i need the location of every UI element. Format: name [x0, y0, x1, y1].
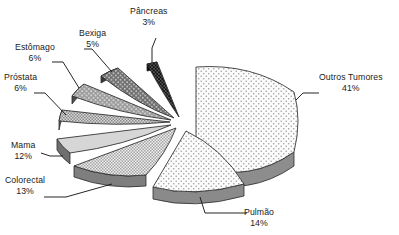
pie-chart-canvas [0, 0, 399, 235]
leader-line-pancreas [152, 38, 156, 63]
label-colorectal: Colorectal 13% [5, 175, 45, 196]
label-outros-tumores: Outros Tumores 41% [319, 72, 383, 93]
label-estomago-value: 6% [15, 53, 55, 64]
label-pulmao: Pulmão 14% [244, 207, 274, 228]
pie-chart-figure: Pâncreas 3% Bexiga 5% Estômago 6% Prósta… [0, 0, 399, 235]
label-mama-name: Mama [11, 140, 36, 151]
label-outros-tumores-value: 41% [319, 83, 383, 94]
label-outros-tumores-name: Outros Tumores [319, 72, 383, 83]
leader-line-colorectal [44, 184, 112, 197]
leader-line-bexiga [84, 49, 112, 72]
label-pancreas-value: 3% [130, 17, 168, 28]
top-crop-edge [0, 0, 399, 7]
label-estomago-name: Estômago [15, 42, 55, 53]
label-bexiga-name: Bexiga [79, 28, 106, 39]
label-bexiga-value: 5% [79, 39, 106, 50]
label-pancreas: Pâncreas 3% [130, 6, 168, 27]
label-bexiga: Bexiga 5% [79, 28, 106, 49]
label-prostata-name: Próstata [4, 72, 37, 83]
label-mama-value: 12% [11, 151, 36, 162]
label-pancreas-name: Pâncreas [130, 6, 168, 17]
label-estomago: Estômago 6% [15, 42, 55, 63]
leader-line-outros-tumores [296, 93, 319, 100]
label-colorectal-name: Colorectal [5, 175, 45, 186]
label-prostata: Próstata 6% [4, 72, 37, 93]
label-colorectal-value: 13% [5, 186, 45, 197]
label-pulmao-name: Pulmão [244, 207, 274, 218]
label-prostata-value: 6% [4, 83, 37, 94]
label-pulmao-value: 14% [244, 218, 274, 229]
label-mama: Mama 12% [11, 140, 36, 161]
leader-line-estomago [52, 62, 79, 88]
